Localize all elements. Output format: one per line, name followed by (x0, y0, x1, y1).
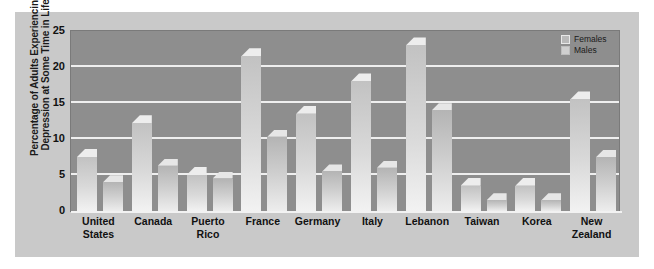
bar-top-face (377, 161, 397, 168)
bar-puerto-rico-females (187, 175, 207, 211)
x-axis-label-line: Zealand (564, 228, 619, 241)
bar-front-face (515, 186, 535, 211)
bar-new-zealand-males (596, 157, 616, 211)
bar-front-face (77, 157, 97, 211)
axis-baseline (71, 211, 622, 213)
bar-italy-males (377, 168, 397, 211)
bar-top-face (461, 178, 481, 186)
x-axis-category-labels: UnitedStatesCanadaPuertoRicoFranceGerman… (71, 215, 622, 255)
bar-front-face (267, 137, 287, 211)
bar-top-face (406, 37, 426, 45)
x-axis-label-line: States (71, 228, 126, 241)
x-axis-label-italy: Italy (345, 215, 400, 228)
bar-front-face (461, 186, 481, 211)
chart-legend: Females Males (561, 34, 633, 56)
bar-front-face (103, 182, 123, 211)
y-axis-tick-labels: 2520151050 (37, 12, 65, 257)
x-axis-label-line: France (235, 215, 290, 228)
bar-front-face (132, 123, 152, 211)
bar-top-face (187, 167, 207, 175)
x-axis-label-line: Korea (509, 215, 564, 228)
bar-new-zealand-females (570, 99, 590, 211)
x-axis-label-line: Germany (290, 215, 345, 228)
legend-label-females: Females (574, 34, 607, 45)
bar-top-face (132, 115, 152, 123)
x-axis-label-lebanon: Lebanon (400, 215, 455, 228)
bar-top-face (541, 193, 561, 200)
bar-top-face (351, 73, 371, 81)
bar-taiwan-females (461, 186, 481, 211)
legend-swatch-females-icon (561, 35, 570, 44)
bar-france-females (241, 56, 261, 211)
bar-front-face (487, 200, 507, 211)
y-axis-tick-5: 5 (43, 168, 65, 180)
bar-group-korea (509, 31, 564, 211)
x-axis-label-korea: Korea (509, 215, 564, 228)
x-axis-label-line: Canada (126, 215, 181, 228)
bar-germany-males (322, 171, 342, 211)
bar-top-face (77, 149, 97, 157)
plot-area (71, 31, 619, 211)
bar-group-lebanon (400, 31, 455, 211)
bar-lebanon-females (406, 45, 426, 211)
bar-korea-males (541, 200, 561, 211)
legend-swatch-males-icon (561, 46, 570, 55)
y-axis-tick-25: 25 (43, 24, 65, 36)
bar-front-face (541, 200, 561, 211)
bar-group-taiwan (455, 31, 510, 211)
bar-front-face (296, 114, 316, 211)
bar-group-canada (126, 31, 181, 211)
bar-top-face (213, 172, 233, 179)
legend-item-males: Males (561, 45, 633, 56)
x-axis-label-germany: Germany (290, 215, 345, 228)
bar-top-face (241, 48, 261, 56)
bar-front-face (570, 99, 590, 211)
bar-france-males (267, 137, 287, 211)
bar-top-face (322, 164, 342, 171)
x-axis-label-united-states: UnitedStates (71, 215, 126, 240)
y-axis-tick-20: 20 (43, 60, 65, 72)
bar-lebanon-males (432, 110, 452, 211)
x-axis-label-taiwan: Taiwan (455, 215, 510, 228)
bar-top-face (596, 150, 616, 157)
bar-group-puerto-rico (181, 31, 236, 211)
bar-top-face (267, 130, 287, 137)
bar-italy-females (351, 81, 371, 211)
x-axis-label-line: Taiwan (455, 215, 510, 228)
chart-figure: Percentage of Adults Experiencing Depres… (15, 12, 639, 257)
x-axis-label-line: United (71, 215, 126, 228)
bar-top-face (487, 193, 507, 200)
bar-front-face (322, 171, 342, 211)
bar-top-face (296, 106, 316, 114)
bar-group-italy (345, 31, 400, 211)
x-axis-label-new-zealand: NewZealand (564, 215, 619, 240)
bar-top-face (432, 103, 452, 110)
y-axis-tick-15: 15 (43, 96, 65, 108)
bar-canada-females (132, 123, 152, 211)
bar-top-face (158, 159, 178, 166)
legend-item-females: Females (561, 34, 633, 45)
bar-front-face (351, 81, 371, 211)
bar-front-face (241, 56, 261, 211)
bar-group-new-zealand (564, 31, 619, 211)
x-axis-label-line: Rico (181, 228, 236, 241)
bar-taiwan-males (487, 200, 507, 211)
bar-top-face (515, 178, 535, 186)
bar-canada-males (158, 166, 178, 211)
x-axis-label-puerto-rico: PuertoRico (181, 215, 236, 240)
bar-germany-females (296, 114, 316, 211)
x-axis-label-line: Puerto (181, 215, 236, 228)
bar-puerto-rico-males (213, 179, 233, 211)
bar-front-face (406, 45, 426, 211)
x-axis-label-france: France (235, 215, 290, 228)
bar-korea-females (515, 186, 535, 211)
legend-label-males: Males (574, 45, 597, 56)
bar-group-germany (290, 31, 345, 211)
bar-front-face (213, 179, 233, 211)
bar-united-states-males (103, 182, 123, 211)
bar-united-states-females (77, 157, 97, 211)
bar-front-face (596, 157, 616, 211)
bar-front-face (377, 168, 397, 211)
x-axis-label-canada: Canada (126, 215, 181, 228)
x-axis-label-line: Italy (345, 215, 400, 228)
